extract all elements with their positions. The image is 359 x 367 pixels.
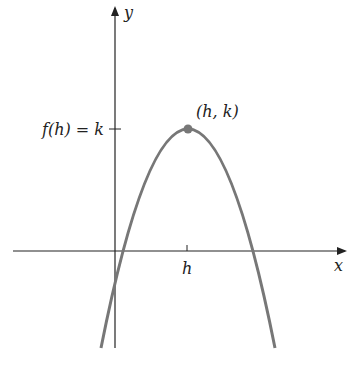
y-tick-label: f(h) = k <box>41 120 104 139</box>
vertex-point <box>184 125 193 134</box>
parabola-curve <box>101 129 275 348</box>
x-axis-label: x <box>334 256 343 275</box>
y-axis-label: y <box>123 3 134 22</box>
x-tick-label-h: h <box>182 259 192 278</box>
parabola-diagram: y x h f(h) = k (h, k) <box>0 0 359 367</box>
vertex-label: (h, k) <box>196 102 239 121</box>
